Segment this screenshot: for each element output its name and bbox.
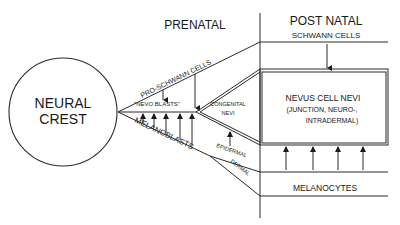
prenatal-heading: PRENATAL xyxy=(164,18,226,32)
melanocytes-label: MELANOCYTES xyxy=(293,183,358,193)
nevus-title: NEVUS CELL NEVI xyxy=(286,93,361,103)
postnatal-heading: POST NATAL xyxy=(290,14,363,28)
nevo-blasts-label: "NEVO BLASTS" xyxy=(134,101,180,107)
neural-crest-diagram: PRENATAL POST NATAL NEURAL CREST PRO-SCH… xyxy=(0,0,400,225)
schwann-cells-label: SCHWANN CELLS xyxy=(292,31,361,40)
nevus-sub-1: (JUNCTION, NEURO-, xyxy=(286,106,357,114)
pro-schwann-label: PRO-SCHWANN CELLS xyxy=(139,58,212,99)
neural-crest-label-1: NEURAL xyxy=(35,95,92,111)
congenital-label-1: CONGENITAL xyxy=(210,101,245,107)
neural-crest-node: NEURAL CREST xyxy=(9,58,117,166)
nevus-sub-2: INTRADERMAL) xyxy=(306,117,359,125)
epidermal-label: EPIDERMAL xyxy=(216,142,248,158)
neural-crest-label-2: CREST xyxy=(39,111,87,127)
congenital-label-2: NEVI xyxy=(222,110,235,116)
congenital-nevi-branch xyxy=(196,69,260,145)
melanoblasts-label: MELANOBLASTS xyxy=(133,116,195,152)
